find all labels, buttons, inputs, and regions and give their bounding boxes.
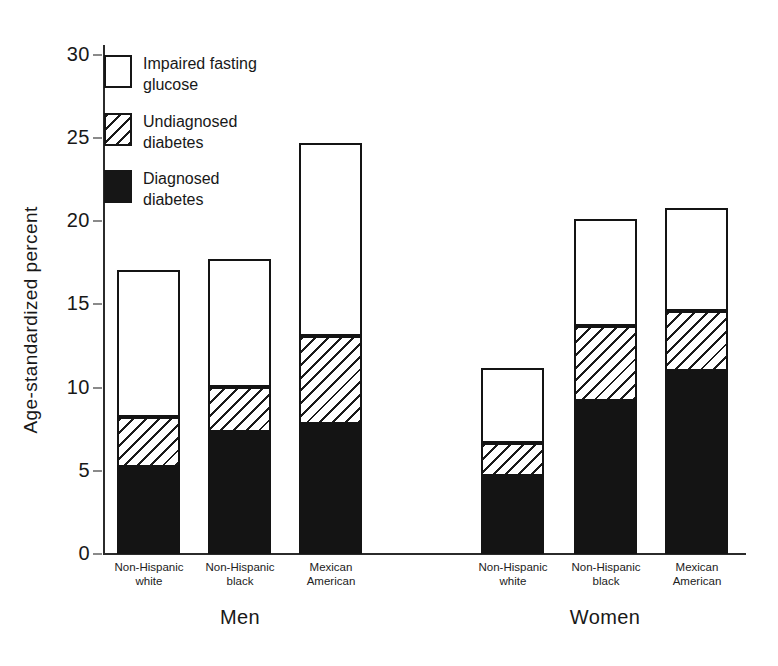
legend-item-diagnosed-diabetes: Diagnoseddiabetes	[104, 170, 220, 210]
y-tick-label: 10	[46, 376, 90, 399]
segment-undiagnosed-diabetes	[117, 417, 180, 467]
bar-men-non-hispanic-white	[117, 270, 180, 554]
y-tick-mark	[93, 54, 102, 56]
legend-swatch-hatch-icon	[104, 113, 132, 146]
segment-impaired-fasting-glucose	[574, 219, 637, 326]
segment-undiagnosed-diabetes	[481, 443, 544, 476]
segment-diagnosed-diabetes	[665, 371, 728, 554]
bar-women-non-hispanic-black	[574, 219, 637, 554]
segment-diagnosed-diabetes	[117, 467, 180, 554]
segment-diagnosed-diabetes	[299, 424, 362, 554]
segment-diagnosed-diabetes	[574, 401, 637, 554]
y-tick-mark	[93, 303, 102, 305]
bar-men-mexican-american	[299, 143, 362, 554]
y-tick-label: 15	[46, 292, 90, 315]
segment-undiagnosed-diabetes	[208, 387, 271, 432]
segment-undiagnosed-diabetes	[299, 336, 362, 424]
category-label-mexican-american: MexicanAmerican	[632, 560, 762, 588]
y-tick-mark	[93, 137, 102, 139]
legend-swatch-black-icon	[104, 170, 132, 203]
legend-item-undiagnosed-diabetes: Undiagnoseddiabetes	[104, 113, 237, 153]
y-axis-title: Age-standardized percent	[20, 180, 44, 460]
segment-impaired-fasting-glucose	[481, 368, 544, 443]
group-label-women: Women	[535, 606, 675, 629]
bar-men-non-hispanic-black	[208, 259, 271, 554]
y-tick-mark	[93, 470, 102, 472]
y-tick-label: 5	[46, 459, 90, 482]
legend-label: Diagnoseddiabetes	[143, 168, 220, 210]
segment-diagnosed-diabetes	[481, 476, 544, 554]
y-tick-mark	[93, 220, 102, 222]
y-tick-mark	[93, 387, 102, 389]
y-tick-label: 20	[46, 209, 90, 232]
segment-undiagnosed-diabetes	[574, 326, 637, 401]
legend-swatch-white-icon	[104, 55, 132, 88]
segment-diagnosed-diabetes	[208, 432, 271, 554]
diabetes-prevalence-chart: Age-standardized percent Impaired fastin…	[0, 0, 778, 666]
segment-impaired-fasting-glucose	[299, 143, 362, 336]
legend-label: Impaired fastingglucose	[143, 53, 257, 95]
x-axis-line	[103, 553, 746, 555]
segment-undiagnosed-diabetes	[665, 311, 728, 371]
bar-women-mexican-american	[665, 208, 728, 554]
bar-women-non-hispanic-white	[481, 368, 544, 554]
group-label-men: Men	[170, 606, 310, 629]
legend: Impaired fastingglucoseUndiagnoseddiabet…	[104, 53, 324, 213]
y-tick-label: 30	[46, 43, 90, 66]
legend-item-impaired-fasting-glucose: Impaired fastingglucose	[104, 55, 257, 95]
y-tick-mark	[93, 553, 102, 555]
y-tick-label: 25	[46, 126, 90, 149]
category-label-mexican-american: MexicanAmerican	[266, 560, 396, 588]
segment-impaired-fasting-glucose	[665, 208, 728, 311]
segment-impaired-fasting-glucose	[208, 259, 271, 387]
segment-impaired-fasting-glucose	[117, 270, 180, 417]
legend-label: Undiagnoseddiabetes	[143, 111, 237, 153]
